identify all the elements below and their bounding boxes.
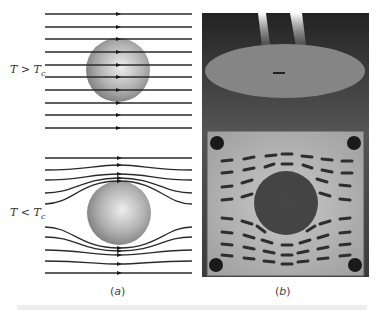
caption-b: (b)	[275, 285, 291, 298]
sphere-normal	[86, 38, 150, 102]
normal-state-diagram	[45, 12, 192, 130]
panel-a-field-diagram: T > Tc T < Tc (a)	[0, 0, 200, 300]
label-superconducting-state: T < Tc	[10, 206, 45, 221]
label-normal-state: T > Tc	[10, 63, 45, 78]
photo-illustration	[202, 13, 369, 277]
panel-b-photograph	[202, 13, 369, 277]
superconductor-shadow	[254, 171, 318, 235]
caption-a: (a)	[110, 285, 125, 298]
field-lines-diagram	[0, 0, 200, 290]
sphere-superconducting	[87, 181, 151, 245]
superconducting-disk	[205, 44, 365, 98]
levitating-magnet	[273, 72, 285, 74]
footer-divider-bar	[17, 305, 367, 310]
superconducting-state-diagram	[45, 156, 192, 275]
